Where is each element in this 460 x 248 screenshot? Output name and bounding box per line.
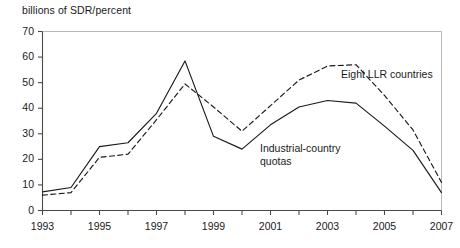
x-tick-label: 2003 (308, 220, 348, 232)
y-tick-label: 40 (10, 101, 34, 113)
y-tick-label: 10 (10, 178, 34, 190)
y-tick-label: 60 (10, 50, 34, 62)
x-tick-label: 1993 (23, 220, 63, 232)
y-tick-label: 70 (10, 25, 34, 37)
x-tick-label: 1995 (80, 220, 120, 232)
x-tick-label: 2007 (422, 220, 460, 232)
y-tick-label: 50 (10, 76, 34, 88)
chart-container: billions of SDR/percent 010203040506070 … (0, 0, 460, 248)
chart-plot-area (0, 0, 460, 248)
x-tick-label: 2001 (251, 220, 291, 232)
series-annotation-quota-label: Industrial-country quotas (260, 142, 341, 167)
series-line-industrial-country-quotas (43, 61, 442, 193)
x-tick-label: 2005 (365, 220, 405, 232)
y-tick-label: 0 (10, 204, 34, 216)
y-tick-label: 20 (10, 152, 34, 164)
y-tick-label: 30 (10, 127, 34, 139)
series-line-eight-llr-countries (43, 65, 442, 195)
axes-group (43, 32, 442, 211)
series-annotation-llr-label: Eight LLR countries (341, 68, 433, 81)
data-series-group (43, 61, 442, 195)
x-tick-label: 1999 (194, 220, 234, 232)
x-tick-label: 1997 (137, 220, 177, 232)
